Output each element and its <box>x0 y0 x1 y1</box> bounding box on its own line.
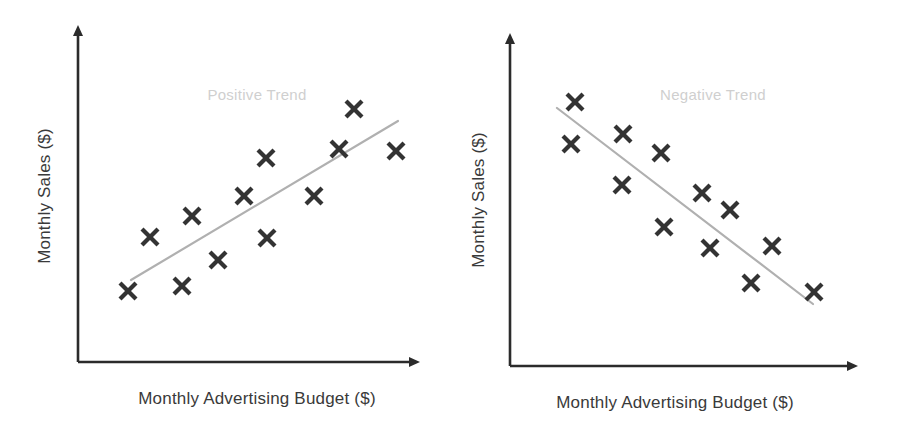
trend-line-group-negative <box>557 108 813 304</box>
data-point-marker: (5.6, 3.1) <box>259 230 275 246</box>
data-point-marker: (8, 2.5) <box>806 284 822 300</box>
data-point-marker: (6.1, 2.8) <box>743 275 759 291</box>
data-point-marker: (4.6, 5) <box>694 185 710 201</box>
data-point-marker: (6.8, 3.9) <box>764 238 780 254</box>
x-axis-arrowhead-positive <box>409 357 420 367</box>
trend-line-positive <box>131 121 398 280</box>
x-axis-label-negative: Monthly Advertising Budget ($) <box>556 393 794 412</box>
data-point-marker: (3.8, 2.2) <box>210 252 226 268</box>
data-point-marker: (5.4, 4.1) <box>722 202 738 218</box>
chart-panel-negative-trend: (1.2, 8.9)(1, 7.7)(2.5, 8)(2.4, 6.5)(3.4… <box>453 0 907 442</box>
data-point-marker: (2.7, 1.4) <box>174 278 190 294</box>
trend-annotation-positive: Positive Trend <box>207 86 306 103</box>
trend-annotation-negative: Negative Trend <box>660 86 766 103</box>
positive-trend-scatter-plot: (1, 1.2)(1.7, 3)(2.7, 1.4)(3, 4.1)(3.8, … <box>0 0 453 442</box>
data-point-marker: (2.4, 6.5) <box>614 177 630 193</box>
data-points-positive: (1, 1.2)(1.7, 3)(2.7, 1.4)(3, 4.1)(3.8, … <box>120 101 404 299</box>
trend-line-negative <box>557 108 813 304</box>
data-point-marker: (4, 5.8) <box>656 219 672 235</box>
data-point-marker: (1.7, 3) <box>142 229 158 245</box>
data-point-marker: (5, 3.8) <box>702 240 718 256</box>
data-point-marker: (4.9, 7.3) <box>258 150 274 166</box>
data-point-marker: (3, 4.1) <box>184 208 200 224</box>
y-axis-label-negative: Monthly Sales ($) <box>469 132 488 268</box>
data-point-marker: (7, 5.1) <box>306 188 322 204</box>
data-point-marker: (1.2, 8.9) <box>567 94 583 110</box>
data-point-marker: (4.7, 5.1) <box>236 188 252 204</box>
data-point-marker: (2.5, 8) <box>615 126 631 142</box>
data-points-negative: (1.2, 8.9)(1, 7.7)(2.5, 8)(2.4, 6.5)(3.4… <box>563 94 822 300</box>
x-axis-arrowhead-negative <box>847 361 858 371</box>
data-point-marker: (7.9, 6.7) <box>346 101 362 117</box>
data-point-marker: (7.5, 8.9) <box>331 141 347 157</box>
x-axis-label-positive: Monthly Advertising Budget ($) <box>138 389 376 408</box>
y-axis-arrowhead-positive <box>73 25 83 36</box>
negative-trend-scatter-plot: (1.2, 8.9)(1, 7.7)(2.5, 8)(2.4, 6.5)(3.4… <box>453 0 907 442</box>
y-axis-arrowhead-negative <box>505 33 515 44</box>
data-point-marker: (9, 6.6) <box>388 143 404 159</box>
data-point-marker: (3.4, 7.4) <box>653 145 669 161</box>
data-point-marker: (1, 1.2) <box>120 283 136 299</box>
trend-line-group-positive <box>131 121 398 280</box>
y-axis-label-positive: Monthly Sales ($) <box>35 128 54 264</box>
scatter-trend-figure: (1, 1.2)(1.7, 3)(2.7, 1.4)(3, 4.1)(3.8, … <box>0 0 907 442</box>
chart-panel-positive-trend: (1, 1.2)(1.7, 3)(2.7, 1.4)(3, 4.1)(3.8, … <box>0 0 453 442</box>
data-point-marker: (1, 7.7) <box>563 136 579 152</box>
